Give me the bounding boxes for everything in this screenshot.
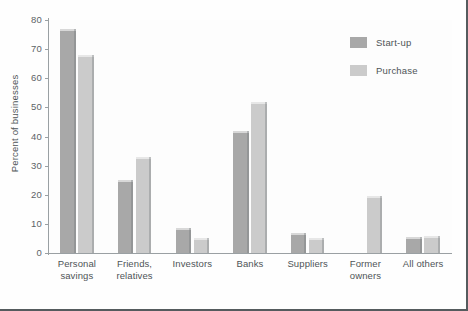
legend-swatch-startup [350,37,367,48]
bar-side-shade [131,180,133,253]
legend-label-startup: Start-up [376,37,411,48]
bar-side-shade [149,157,151,253]
legend-label-purchase: Purchase [376,65,418,76]
bar-start-up-suppliers [291,233,307,253]
bar-side-shade [380,196,382,253]
y-tick-mark-80 [45,20,48,21]
bar-purchase-former-owners [367,196,383,253]
bar-start-up-personal-savings [60,29,76,253]
y-tick-mark-30 [45,166,48,167]
bar-side-shade [247,131,249,253]
bar-purchase-investors [194,238,210,253]
bar-purchase-suppliers [309,238,325,253]
bar-side-shade [207,238,209,253]
y-tick-mark-50 [45,107,48,108]
bar-side-shade [189,228,191,253]
y-tick-mark-60 [45,78,48,79]
bar-purchase-banks [251,102,267,253]
bar-start-up-investors [176,228,192,253]
bar-purchase-friends-relatives [136,157,152,253]
bar-side-shade [322,238,324,253]
y-axis-title: Percent of businesses [9,14,20,234]
bar-start-up-banks [233,131,249,253]
bar-side-shade [92,55,94,253]
bar-side-shade [265,102,267,253]
y-tick-mark-10 [45,224,48,225]
legend-swatch-purchase [350,65,367,76]
bar-side-shade [420,237,422,253]
bar-side-shade [438,236,440,253]
y-tick-mark-20 [45,195,48,196]
x-label-all-others: All others [388,258,458,270]
chart-figure: 01020304050607080 Percent of businesses … [0,0,468,311]
y-tick-mark-40 [45,137,48,138]
bar-purchase-personal-savings [78,55,94,253]
bar-purchase-all-others [424,236,440,253]
bar-side-shade [304,233,306,253]
legend-item-purchase: Purchase [350,62,418,79]
x-label-line: All others [388,258,458,270]
y-axis-line [48,18,49,255]
x-label-line: owners [331,270,401,282]
y-tick-label-0: 0 [2,247,42,258]
chart-legend: Start-up Purchase [350,34,418,90]
y-tick-mark-70 [45,49,48,50]
x-label-line: relatives [100,270,170,282]
bar-start-up-friends-relatives [118,180,134,253]
y-tick-mark-0 [45,253,48,254]
bar-side-shade [74,29,76,253]
legend-item-startup: Start-up [350,34,418,51]
x-axis-line [46,253,452,254]
bar-start-up-all-others [406,237,422,253]
